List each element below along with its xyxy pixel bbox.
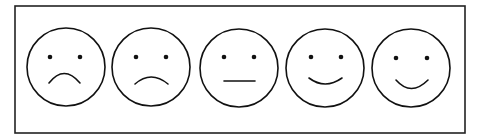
face-happy-icon[interactable]: Happy (286, 29, 364, 107)
right-eye (78, 55, 83, 60)
rating-scale: Facial expression rating scale Very sadS… (0, 0, 479, 138)
face-outline (286, 29, 364, 107)
left-eye (309, 55, 314, 60)
left-eye (222, 55, 227, 60)
face-outline (27, 28, 105, 106)
face-neutral-icon[interactable]: Neutral (200, 29, 278, 107)
face-sad-icon[interactable]: Sad (112, 28, 190, 106)
face-very-happy-icon[interactable]: Very happy (372, 29, 450, 107)
left-eye (394, 56, 399, 61)
right-eye (339, 55, 344, 60)
right-eye (252, 55, 257, 60)
left-eye (134, 55, 139, 60)
face-outline (112, 28, 190, 106)
right-eye (164, 55, 169, 60)
faces-row: Very sadSadNeutralHappyVery happy (27, 28, 450, 107)
face-outline (200, 29, 278, 107)
right-eye (425, 56, 430, 61)
face-outline (372, 29, 450, 107)
face-very-sad-icon[interactable]: Very sad (27, 28, 105, 106)
left-eye (48, 55, 53, 60)
